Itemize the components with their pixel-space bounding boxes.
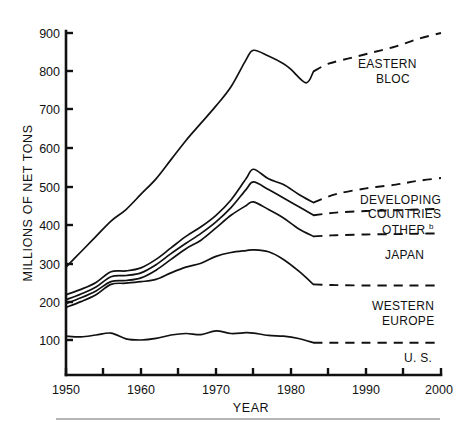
y-tick-label-400: 400 bbox=[39, 219, 60, 233]
series-line-japan-historical bbox=[66, 202, 314, 304]
y-axis-title: MILLIONS OF NET TONS bbox=[21, 124, 35, 281]
x-tick-label-1960: 1960 bbox=[127, 383, 155, 397]
series-label-western-europe-line2: EUROPE bbox=[382, 314, 434, 328]
y-tick-label-600: 600 bbox=[39, 142, 60, 156]
series-label-developing-line2: COUNTRIES bbox=[368, 207, 441, 221]
series-label-us: U. S. bbox=[404, 351, 432, 365]
y-tick-label-300: 300 bbox=[39, 258, 60, 272]
x-tick-label-2000: 2000 bbox=[425, 383, 453, 397]
x-tick-label-1980: 1980 bbox=[277, 383, 305, 397]
y-tick-label-900: 900 bbox=[39, 27, 60, 41]
series-label-western-europe-line1: WESTERN bbox=[372, 299, 434, 313]
y-tick-label-200: 200 bbox=[39, 296, 60, 310]
series-line-western-europe-projection bbox=[314, 284, 442, 285]
series-label-other-superscript: b bbox=[429, 222, 434, 231]
chart-figure: 900 800 700 600 500 400 300 200 100 1950… bbox=[0, 0, 471, 432]
y-tick-label-500: 500 bbox=[39, 181, 60, 195]
series-line-developing-countries-historical bbox=[66, 169, 314, 294]
x-tick-label-1970: 1970 bbox=[202, 383, 230, 397]
series-label-other: OTHER bbox=[382, 223, 426, 237]
y-tick-label-700: 700 bbox=[39, 103, 60, 117]
line-chart-svg: 900 800 700 600 500 400 300 200 100 1950… bbox=[0, 0, 471, 432]
series-label-eastern-bloc-line2: BLOC bbox=[376, 72, 410, 86]
y-tick-label-800: 800 bbox=[39, 65, 60, 79]
x-tick-label-1990: 1990 bbox=[352, 383, 380, 397]
series-label-developing-line1: DEVELOPING bbox=[360, 193, 441, 207]
series-line-other-historical bbox=[66, 182, 314, 300]
x-axis-title: YEAR bbox=[233, 401, 269, 415]
series-line-western-europe-historical bbox=[66, 250, 314, 308]
series-label-eastern-bloc-line1: EASTERN bbox=[358, 57, 417, 71]
x-tick-label-1950: 1950 bbox=[52, 383, 80, 397]
series-line-u-s-historical bbox=[66, 331, 314, 343]
y-tick-label-100: 100 bbox=[39, 334, 60, 348]
series-label-japan: JAPAN bbox=[385, 248, 424, 262]
